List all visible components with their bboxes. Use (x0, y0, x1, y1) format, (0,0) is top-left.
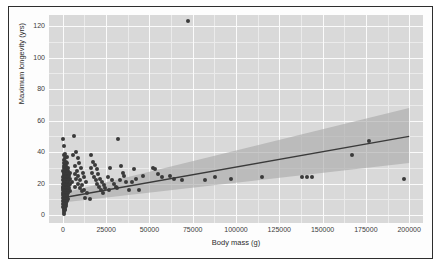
scatter-point (89, 153, 93, 157)
scatter-point (141, 174, 145, 178)
x-tick-label: 50000 (140, 225, 159, 234)
scatter-point (186, 19, 190, 23)
figure-frame: 020406080100120 025000500007500010000012… (8, 6, 433, 259)
scatter-point (180, 178, 184, 182)
scatter-point (85, 191, 89, 195)
x-tick-label: 25000 (96, 225, 115, 234)
y-tick-label: 80 (9, 85, 45, 93)
scatter-point (79, 166, 83, 170)
scatter-point (130, 180, 134, 184)
y-tick-label: 40 (9, 148, 45, 156)
scatter-point (108, 166, 112, 170)
x-tick-label: 0 (61, 225, 65, 234)
y-axis-ticks: 020406080100120 (9, 15, 45, 223)
y-tick-label: 60 (9, 117, 45, 125)
scatter-point (77, 161, 81, 165)
scatter-point (172, 177, 176, 181)
scatter-point (89, 166, 93, 170)
scatter-point (88, 197, 92, 201)
scatter-point (402, 177, 406, 181)
scatter-point (80, 189, 84, 193)
scatter-point (61, 137, 65, 141)
x-axis-title: Body mass (g) (49, 238, 423, 247)
scatter-point (115, 186, 119, 190)
x-tick-label: 75000 (183, 225, 202, 234)
x-tick-label: 200000 (397, 225, 420, 234)
scatter-point (101, 191, 105, 195)
scatter-point (132, 167, 136, 171)
scatter-point (124, 180, 128, 184)
scatter-point (153, 167, 157, 171)
scatter-point (119, 164, 123, 168)
scatter-point (137, 188, 141, 192)
scatter-point (118, 178, 122, 182)
scatter-point (83, 196, 87, 200)
scatter-point (81, 171, 85, 175)
scatter-plot-panel (49, 15, 423, 223)
scatter-point (72, 134, 76, 138)
scatter-point (76, 156, 80, 160)
x-tick-label: 150000 (311, 225, 334, 234)
scatter-point (95, 167, 99, 171)
scatter-point (300, 175, 304, 179)
scatter-point (93, 163, 97, 167)
scatter-point (73, 185, 77, 189)
scatter-point (134, 177, 138, 181)
x-tick-label: 125000 (268, 225, 291, 234)
scatter-point (213, 175, 217, 179)
scatter-point (350, 153, 354, 157)
scatter-point (127, 188, 131, 192)
scatter-point (62, 144, 66, 148)
x-axis-ticks: 0250005000075000100000125000150000175000… (49, 225, 423, 237)
scatter-point (367, 139, 371, 143)
y-tick-label: 100 (9, 54, 45, 62)
scatter-point (73, 164, 77, 168)
scatter-point (310, 175, 314, 179)
scatter-point (71, 153, 75, 157)
y-tick-label: 120 (9, 22, 45, 30)
scatter-point (260, 175, 264, 179)
scatter-point (107, 188, 111, 192)
scatter-point (122, 174, 126, 178)
y-axis-title: Maximum longevity (yrs) (17, 4, 26, 124)
x-tick-label: 100000 (224, 225, 247, 234)
y-tick-label: 0 (9, 211, 45, 219)
scatter-point (305, 175, 309, 179)
data-points-layer (49, 15, 423, 223)
scatter-point (84, 180, 88, 184)
scatter-point (229, 177, 233, 181)
scatter-point (116, 137, 120, 141)
scatter-point (62, 212, 66, 216)
y-tick-label: 20 (9, 180, 45, 188)
scatter-point (203, 178, 207, 182)
scatter-point (82, 175, 86, 179)
figure-inner: 020406080100120 025000500007500010000012… (9, 7, 432, 258)
scatter-point (96, 172, 100, 176)
scatter-point (160, 175, 164, 179)
x-tick-label: 175000 (354, 225, 377, 234)
scatter-point (90, 171, 94, 175)
